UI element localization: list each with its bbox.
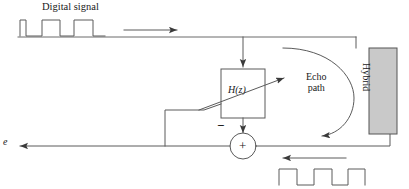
- digital-signal-label: Digital signal: [42, 1, 99, 12]
- hybrid-block: [369, 48, 397, 134]
- diagram-canvas: [0, 0, 409, 189]
- received-signal-waveform: [279, 169, 365, 185]
- hybrid-label: Hybrid: [361, 63, 372, 91]
- minus-sign-label: −: [217, 119, 224, 133]
- echo-path-label: Echo path: [306, 72, 327, 93]
- filter-label: H(z): [228, 85, 246, 96]
- digital-signal-waveform: [20, 20, 105, 36]
- filter-feedback-line: [165, 104, 221, 146]
- echo-canceller-diagram: Digital signal Echo path H(z) Hybrid e −…: [0, 0, 409, 189]
- plus-sign-label: +: [239, 139, 246, 153]
- error-signal-label: e: [3, 137, 7, 148]
